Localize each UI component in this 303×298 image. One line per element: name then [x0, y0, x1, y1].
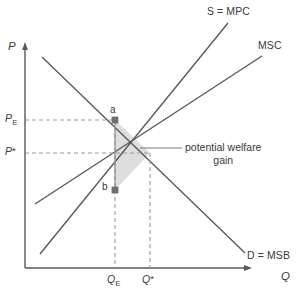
externality-diagram: S = MPC MSC D = MSB P Q PE P* QE Q* a b … — [0, 0, 303, 298]
qty-qe-letter: Q — [107, 273, 115, 285]
x-axis-arrow — [244, 265, 252, 271]
y-axis-label: P — [8, 40, 16, 53]
point-b-marker — [112, 187, 119, 194]
price-pstar-letter: P — [5, 145, 12, 157]
price-pe-subscript: E — [12, 118, 17, 127]
annotation-line-2: gain — [185, 154, 261, 167]
qty-qe-label: QE — [107, 273, 120, 286]
supply-mpc-curve — [40, 23, 228, 254]
point-b-label: b — [102, 181, 108, 193]
msc-label: MSC — [258, 39, 282, 51]
qty-qstar-letter: Q — [142, 273, 150, 285]
demand-msb-label: D = MSB — [247, 249, 290, 261]
potential-welfare-gain-annotation: potential welfare gain — [185, 141, 261, 167]
price-pstar-star: * — [12, 145, 16, 156]
price-pe-letter: P — [5, 112, 12, 124]
annotation-line-1: potential welfare — [185, 141, 261, 154]
point-a-marker — [112, 117, 119, 124]
price-pstar-label: P* — [5, 145, 16, 158]
qty-qstar-label: Q* — [142, 273, 154, 286]
y-axis-arrow — [22, 42, 28, 50]
qty-qe-subscript: E — [115, 279, 120, 288]
supply-mpc-label: S = MPC — [207, 5, 250, 17]
qty-qstar-star: * — [150, 273, 154, 284]
point-a-label: a — [110, 104, 116, 116]
price-pe-label: PE — [5, 112, 17, 125]
x-axis-label: Q — [281, 270, 290, 283]
msc-curve — [35, 56, 262, 204]
